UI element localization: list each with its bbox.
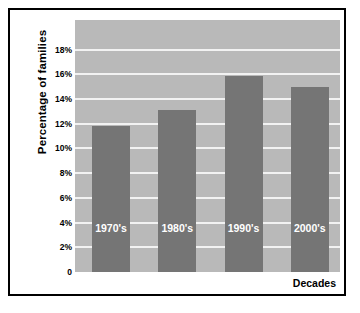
bar-chart-figure: Percentage of families 02%4%6%8%10%12%14… [0, 0, 360, 313]
y-axis-tick-label: 18% [32, 45, 72, 55]
bars-group: 1970's1980's1990's2000's [75, 20, 340, 272]
y-axis-tick-label: 14% [32, 94, 72, 104]
y-axis-tick-label: 10% [32, 143, 72, 153]
bar[interactable]: 2000's [291, 87, 329, 272]
plot-area: 1970's1980's1990's2000's [75, 20, 340, 272]
bar[interactable]: 1970's [92, 126, 130, 272]
x-axis-title: Decades [190, 277, 336, 289]
chart-frame: Percentage of families 02%4%6%8%10%12%14… [8, 8, 346, 296]
bar[interactable]: 1990's [225, 76, 263, 272]
y-axis-tick-label: 0 [32, 267, 72, 277]
y-axis-tick-label: 6% [32, 193, 72, 203]
y-axis-tick-label: 2% [32, 242, 72, 252]
bar[interactable]: 1980's [158, 110, 196, 272]
bar-category-label: 1990's [225, 222, 263, 234]
bar-category-label: 1970's [92, 222, 130, 234]
bar-category-label: 2000's [291, 222, 329, 234]
y-axis-tick-labels: 02%4%6%8%10%12%14%16%18% [32, 20, 72, 272]
y-axis-tick-label: 16% [32, 69, 72, 79]
bar-category-label: 1980's [158, 222, 196, 234]
y-axis-tick-label: 4% [32, 218, 72, 228]
y-axis-tick-label: 8% [32, 168, 72, 178]
y-axis-tick-label: 12% [32, 119, 72, 129]
